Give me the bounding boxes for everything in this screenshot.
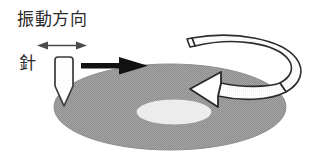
record-disc-group: [54, 64, 286, 150]
vibration-direction-label: 振動方向: [17, 11, 87, 28]
figure-container: 振動方向 針: [0, 0, 316, 157]
vibration-double-arrow: [37, 42, 87, 50]
tracking-arrow-shaft: [81, 63, 121, 69]
needle-label: 針: [19, 55, 37, 72]
record-center-label: [136, 99, 212, 125]
vibration-arrowhead-left: [37, 42, 48, 50]
vibration-arrowhead-right: [76, 42, 87, 50]
